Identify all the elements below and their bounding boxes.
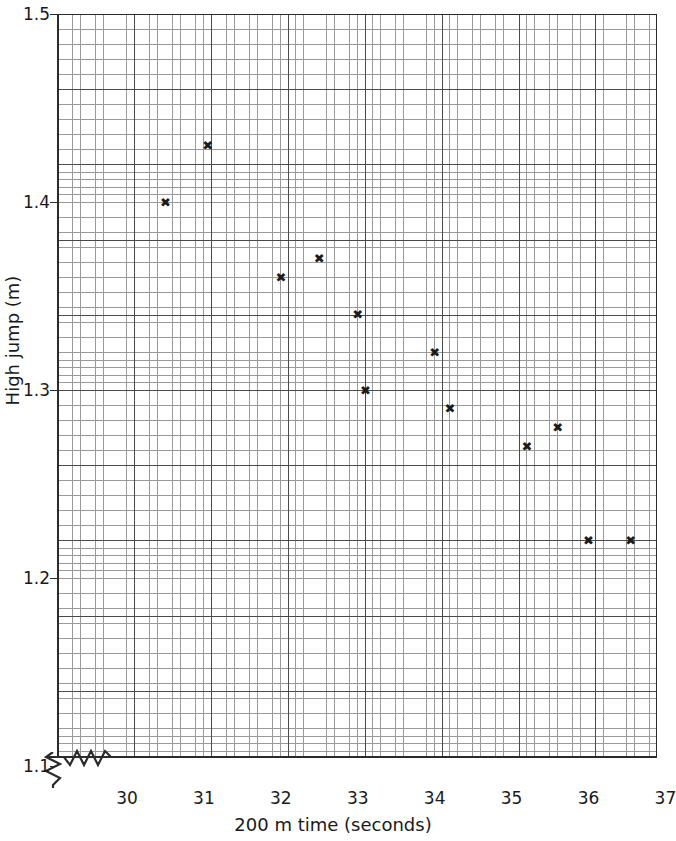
y-tick-mark [50, 202, 57, 203]
x-tick-label: 30 [116, 788, 138, 808]
y-tick-mark [50, 390, 57, 391]
data-point: ✖ [428, 346, 441, 359]
data-point: ✖ [159, 196, 172, 209]
x-axis-line [47, 756, 657, 758]
x-axis-break-icon [58, 748, 120, 768]
y-tick-label: 1.1 [23, 756, 50, 776]
x-axis-title: 200 m time (seconds) [0, 814, 666, 835]
data-point: ✖ [444, 402, 457, 415]
data-point: ✖ [551, 421, 564, 434]
x-tick-label: 35 [501, 788, 523, 808]
data-point: ✖ [520, 440, 533, 453]
y-tick-mark [50, 766, 57, 767]
y-axis-title: High jump (m) [2, 251, 23, 431]
data-point: ✖ [582, 534, 595, 547]
y-tick-label: 1.5 [23, 4, 50, 24]
x-tick-label: 33 [347, 788, 369, 808]
x-tick-label: 31 [193, 788, 215, 808]
major-gridlines [57, 14, 657, 756]
x-tick-label: 36 [578, 788, 600, 808]
data-point: ✖ [624, 534, 637, 547]
y-axis-line [57, 14, 59, 756]
y-tick-mark [50, 14, 57, 15]
data-point: ✖ [313, 252, 326, 265]
plot-area: ✖✖✖✖✖✖✖✖✖✖✖✖ [57, 14, 657, 756]
data-point: ✖ [351, 308, 364, 321]
data-point: ✖ [201, 139, 214, 152]
y-tick-mark [50, 578, 57, 579]
y-tick-label: 1.4 [23, 192, 50, 212]
y-tick-label: 1.3 [23, 380, 50, 400]
x-tick-label: 34 [424, 788, 446, 808]
data-point: ✖ [359, 384, 372, 397]
x-tick-label: 37 [655, 788, 676, 808]
y-tick-label: 1.2 [23, 568, 50, 588]
x-tick-label: 32 [270, 788, 292, 808]
data-point: ✖ [274, 271, 287, 284]
